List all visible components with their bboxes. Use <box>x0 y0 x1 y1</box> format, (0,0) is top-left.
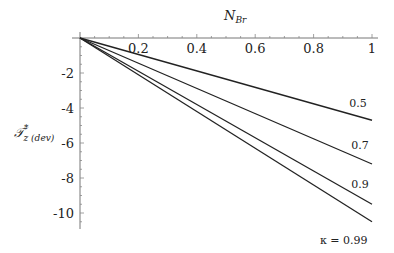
x-axis-title: NBr <box>223 8 247 25</box>
curve-label-0.5: 0.5 <box>349 97 367 110</box>
x-tick-label: 0.4 <box>186 41 207 56</box>
y-axis-title: 𝒯*z (dev) <box>14 123 55 143</box>
y-tick-label: -10 <box>53 206 74 221</box>
curve-kappa-0.99 <box>80 38 372 222</box>
x-tick-label: 0.2 <box>128 41 149 56</box>
curve-labels: 0.50.70.9κ = 0.99 <box>320 97 369 247</box>
y-tick-label: -6 <box>61 136 74 151</box>
curve-label-0.99: κ = 0.99 <box>320 234 368 247</box>
curve-kappa-0.9 <box>80 38 372 204</box>
axes: 0.20.40.60.81-2-4-6-8-10 <box>53 32 378 229</box>
y-tick-label: -2 <box>61 66 74 81</box>
x-tick-label: 0.6 <box>245 41 266 56</box>
curve-label-0.7: 0.7 <box>351 139 369 152</box>
chart: 0.20.40.60.81-2-4-6-8-10 0.50.70.9κ = 0.… <box>0 0 394 253</box>
curve-label-0.9: 0.9 <box>351 178 369 191</box>
y-tick-label: -8 <box>61 171 74 186</box>
x-tick-label: 0.8 <box>303 41 324 56</box>
curve-kappa-0.5 <box>80 38 372 120</box>
curves <box>80 38 372 222</box>
y-tick-label: -4 <box>61 101 74 116</box>
x-tick-label: 1 <box>368 41 376 56</box>
curve-kappa-0.7 <box>80 38 372 164</box>
